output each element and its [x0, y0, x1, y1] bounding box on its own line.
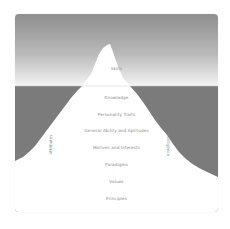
layer-knowledge: Knowledge: [15, 95, 218, 100]
layer-values: Values: [15, 179, 218, 184]
layer-motives-interests: Motives and Interests: [15, 145, 218, 150]
layer-paradigms: Paradigms: [15, 162, 218, 167]
layer-personality-traits: Personality Traits: [15, 112, 218, 117]
side-label-right: Intelligence: [166, 133, 171, 156]
layer-general-ability: General Ability and Aptitudes: [15, 128, 218, 133]
iceberg-diagram: Skills Knowledge Personality Traits Gene…: [15, 14, 218, 212]
side-label-left: Attributes: [48, 135, 53, 155]
skills-label: Skills: [15, 66, 218, 71]
layer-principles: Principles: [15, 196, 218, 201]
